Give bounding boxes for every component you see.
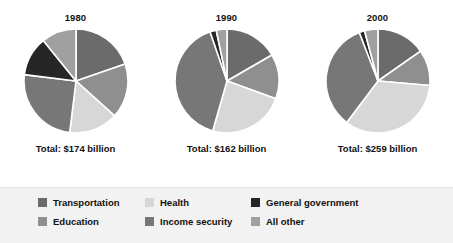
pie-1980-svg [23, 28, 129, 134]
legend-item-transportation: Transportation [38, 193, 120, 212]
chart-year-label: 1980 [0, 0, 151, 24]
chart-year-label: 2000 [302, 0, 453, 24]
legend-label: Education [53, 216, 99, 227]
chart-panel-2000: 2000 Total: $259 billion [302, 0, 453, 185]
charts-row: 1980 Total: $174 billion 1990 Total: $16… [0, 0, 453, 185]
legend-swatch-icon [38, 217, 47, 226]
legend-swatch-icon [251, 217, 260, 226]
legend-column-2: Health Income security [145, 193, 232, 231]
legend-label: Transportation [53, 197, 120, 208]
chart-year-label: 1990 [151, 0, 302, 24]
legend-item-health: Health [145, 193, 232, 212]
pie-2000-svg [325, 28, 431, 134]
legend-label: General government [266, 197, 358, 208]
pie-slice [24, 75, 76, 133]
legend-swatch-icon [145, 217, 154, 226]
chart-total-label: Total: $174 billion [0, 143, 151, 154]
legend-label: Health [160, 197, 189, 208]
legend-item-income-security: Income security [145, 212, 232, 231]
chart-total-label: Total: $162 billion [151, 143, 302, 154]
legend-column-1: Transportation Education [38, 193, 120, 231]
chart-total-label: Total: $259 billion [302, 143, 453, 154]
pie-1990 [174, 28, 280, 134]
legend-label: Income security [160, 216, 232, 227]
chart-panel-1980: 1980 Total: $174 billion [0, 0, 151, 185]
pie-1980 [23, 28, 129, 134]
legend-item-general-government: General government [251, 193, 358, 212]
legend-swatch-icon [38, 198, 47, 207]
legend-swatch-icon [251, 198, 260, 207]
legend-column-3: General government All other [251, 193, 358, 231]
pie-1990-svg [174, 28, 280, 134]
legend-item-all-other: All other [251, 212, 358, 231]
chart-panel-1990: 1990 Total: $162 billion [151, 0, 302, 185]
legend-item-education: Education [38, 212, 120, 231]
legend-swatch-icon [145, 198, 154, 207]
chart-legend: Transportation Education Health Income s… [0, 187, 453, 243]
pie-2000 [325, 28, 431, 134]
legend-label: All other [266, 216, 305, 227]
